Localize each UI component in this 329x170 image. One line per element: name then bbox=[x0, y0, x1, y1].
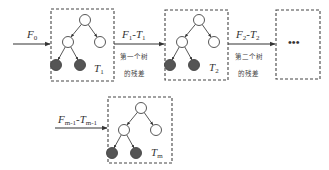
residual-1-label: F1-T1 bbox=[122, 28, 146, 42]
residual-2-label: F2-T2 bbox=[236, 28, 260, 42]
residual-1-note-line2: 的残差 bbox=[124, 68, 145, 78]
tree-1-label: T1 bbox=[94, 62, 104, 76]
diagram-canvas bbox=[0, 0, 329, 170]
residual-m-label: Fm-1-Tm-1 bbox=[58, 113, 97, 127]
tree-2-label: T2 bbox=[209, 61, 219, 75]
ellipsis-text: ••• bbox=[288, 36, 300, 48]
residual-2-note-line1: 第二个树 bbox=[235, 51, 263, 61]
residual-2-note-line2: 的残差 bbox=[238, 68, 259, 78]
input-label: F0 bbox=[27, 28, 37, 42]
tree-m-label: Tm bbox=[151, 146, 163, 160]
residual-1-note-line1: 第一个树 bbox=[120, 51, 148, 61]
